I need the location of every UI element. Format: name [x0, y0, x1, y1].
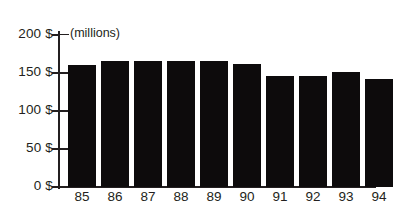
bar-series — [58, 34, 370, 187]
y-tick-label-100: 100 $ — [18, 103, 53, 117]
y-axis-labels: 200 $ 150 $ 100 $ 50 $ 0 $ — [0, 0, 53, 223]
x-tick-label-90: 90 — [233, 190, 261, 204]
y-tick-label-200: 200 $ — [18, 27, 53, 41]
bar-91 — [266, 76, 294, 187]
bar-85 — [68, 65, 96, 187]
x-tick-label-93: 93 — [332, 190, 360, 204]
x-tick-label-85: 85 — [68, 190, 96, 204]
x-tick-label-87: 87 — [134, 190, 162, 204]
x-tick-label-91: 91 — [266, 190, 294, 204]
bar-94 — [365, 79, 393, 187]
bar-89 — [200, 61, 228, 187]
bar-92 — [299, 76, 327, 187]
y-tick-label-0: 0 $ — [34, 179, 53, 193]
bar-86 — [101, 61, 129, 187]
x-axis-labels: 85 86 87 88 89 90 91 92 93 94 — [58, 190, 376, 214]
x-tick-label-94: 94 — [365, 190, 393, 204]
bar-90 — [233, 64, 261, 187]
y-tick-label-150: 150 $ — [18, 65, 53, 79]
bar-93 — [332, 72, 360, 187]
x-tick-label-86: 86 — [101, 190, 129, 204]
bar-87 — [134, 61, 162, 187]
bar-88 — [167, 61, 195, 187]
x-tick-label-92: 92 — [299, 190, 327, 204]
y-tick-label-50: 50 $ — [26, 141, 53, 155]
plot-area — [58, 34, 370, 187]
x-tick-label-88: 88 — [167, 190, 195, 204]
x-tick-label-89: 89 — [200, 190, 228, 204]
